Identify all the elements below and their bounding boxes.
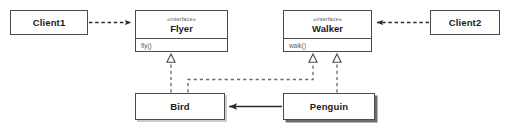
node-penguin-label: Penguin — [310, 101, 349, 112]
node-flyer[interactable]: «interface» Flyer fly() — [135, 10, 228, 52]
uml-class-diagram: Bird (association) --> Client1 «interfac… — [0, 0, 512, 128]
node-bird[interactable]: Bird — [135, 93, 225, 120]
node-flyer-operation-fly: fly() — [141, 42, 152, 49]
node-walker[interactable]: «interface» Walker walk() — [283, 10, 372, 52]
node-penguin[interactable]: Penguin — [283, 93, 375, 120]
node-client2-label: Client2 — [449, 17, 482, 28]
node-walker-operations: walk() — [284, 39, 371, 51]
node-walker-stereotype: «interface» — [313, 16, 342, 23]
node-client1-label: Client1 — [33, 17, 66, 28]
node-walker-label: Walker — [312, 23, 343, 34]
node-flyer-stereotype: «interface» — [167, 16, 196, 23]
node-client1[interactable]: Client1 — [10, 10, 88, 35]
node-walker-header: «interface» Walker — [284, 11, 371, 39]
edge-bird-implements-walker — [188, 63, 313, 93]
node-walker-operation-walk: walk() — [289, 42, 306, 49]
node-client2[interactable]: Client2 — [430, 10, 500, 35]
node-bird-label: Bird — [170, 101, 190, 112]
node-flyer-label: Flyer — [170, 23, 193, 34]
node-flyer-header: «interface» Flyer — [136, 11, 227, 39]
node-flyer-operations: fly() — [136, 39, 227, 51]
